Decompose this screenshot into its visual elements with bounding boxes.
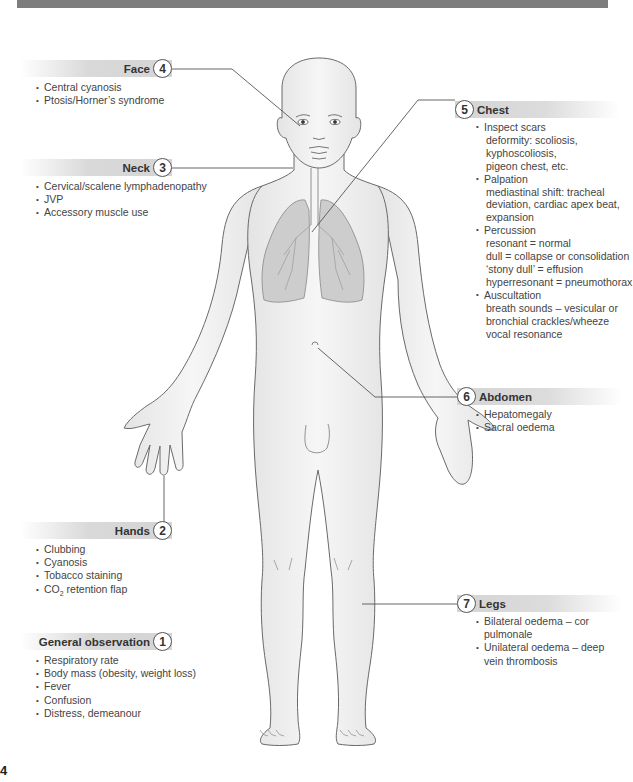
list-item: Clubbing (36, 543, 127, 556)
abdomen-section-header: 6 Abdomen (457, 388, 622, 405)
list-item: Fever (36, 680, 196, 693)
general-observation-section-header: General observation 1 (20, 633, 172, 650)
list-item: Palpation mediastinal shift: tracheal de… (476, 173, 632, 225)
list-item: Percussion resonant = normal dull = coll… (476, 224, 632, 289)
general-observation-list: Respiratory rate Body mass (obesity, wei… (36, 654, 196, 720)
hands-number-badge: 2 (153, 521, 172, 540)
hands-title: Hands (115, 525, 150, 537)
legs-number-badge: 7 (457, 594, 476, 613)
list-item: Cyanosis (36, 556, 127, 569)
list-item: Unilateral oedema – deep vein thrombosis (476, 641, 621, 667)
list-item: Tobacco staining (36, 569, 127, 582)
page-number: 4 (0, 763, 7, 778)
chest-number-badge: 5 (455, 100, 474, 119)
list-item: JVP (36, 193, 207, 206)
list-item: Sacral oedema (476, 421, 555, 434)
face-section-header: Face 4 (20, 60, 172, 77)
list-item: Central cyanosis (36, 81, 164, 94)
face-title: Face (124, 63, 150, 75)
list-item: CO2 retention flap (36, 583, 127, 600)
neck-findings-list: Cervical/scalene lymphadenopathy JVP Acc… (36, 180, 207, 220)
face-number-badge: 4 (153, 59, 172, 78)
list-item: Distress, demeanour (36, 707, 196, 720)
list-item: Body mass (obesity, weight loss) (36, 667, 196, 680)
neck-section-header: Neck 3 (20, 159, 172, 176)
list-item: Respiratory rate (36, 654, 196, 667)
neck-number-badge: 3 (153, 158, 172, 177)
list-item: Cervical/scalene lymphadenopathy (36, 180, 207, 193)
chest-section-header: 5 Chest (455, 101, 620, 118)
hands-findings-list: Clubbing Cyanosis Tobacco staining CO2 r… (36, 543, 127, 600)
list-item: Hepatomegaly (476, 408, 555, 421)
legs-findings-list: Bilateral oedema – cor pulmonale Unilate… (476, 615, 621, 668)
legs-title: Legs (479, 598, 506, 610)
hands-section-header: Hands 2 (20, 522, 172, 539)
list-item: Ptosis/Horner’s syndrome (36, 94, 164, 107)
abdomen-findings-list: Hepatomegaly Sacral oedema (476, 408, 555, 434)
general-observation-number-badge: 1 (153, 632, 172, 651)
chest-title: Chest (477, 104, 509, 116)
body-outline (124, 58, 494, 746)
list-item: Auscultation breath sounds – vesicular o… (476, 289, 632, 341)
chest-findings-list: Inspect scars deformity: scoliosis, kyph… (476, 121, 632, 340)
list-item: Accessory muscle use (36, 206, 207, 219)
abdomen-title: Abdomen (479, 391, 532, 403)
abdomen-number-badge: 6 (457, 387, 476, 406)
face-findings-list: Central cyanosis Ptosis/Horner’s syndrom… (36, 81, 164, 107)
list-item: Bilateral oedema – cor pulmonale (476, 615, 621, 641)
neck-title: Neck (123, 162, 151, 174)
list-item: Confusion (36, 694, 196, 707)
list-item: Inspect scars deformity: scoliosis, kyph… (476, 121, 632, 173)
legs-section-header: 7 Legs (457, 595, 622, 612)
general-observation-title: General observation (39, 636, 150, 648)
